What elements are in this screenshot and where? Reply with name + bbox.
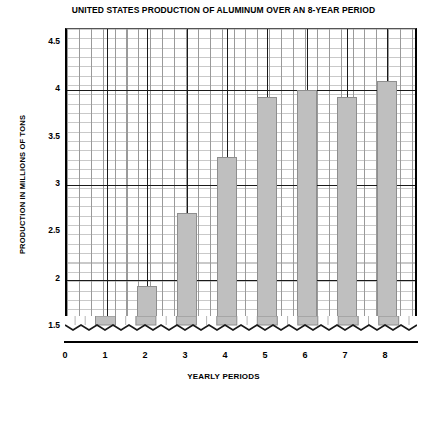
- y-tick-label-3: 3: [22, 178, 60, 188]
- axis-break-indicator: [65, 316, 417, 342]
- y-tick-label-4: 4: [22, 83, 60, 93]
- x-tick-label-0: 0: [50, 350, 80, 360]
- major-gridline-x1: [107, 29, 108, 341]
- chart-title: UNITED STATES PRODUCTION OF ALUMINUM OVE…: [0, 5, 447, 15]
- y-tick-label-4.5: 4.5: [22, 36, 60, 46]
- bar-period-6: [297, 90, 317, 341]
- major-gridline-2: [67, 280, 415, 281]
- x-tick-label-4: 4: [210, 350, 240, 360]
- y-tick-label-2: 2: [22, 273, 60, 283]
- x-tick-label-8: 8: [370, 350, 400, 360]
- x-tick-label-2: 2: [130, 350, 160, 360]
- x-tick-label-1: 1: [90, 350, 120, 360]
- x-tick-label-6: 6: [290, 350, 320, 360]
- x-axis-title: YEARLY PERIODS: [0, 372, 447, 381]
- x-tick-label-3: 3: [170, 350, 200, 360]
- x-tick-label-5: 5: [250, 350, 280, 360]
- y-tick-label-1.5: 1.5: [22, 320, 60, 330]
- major-gridline-4: [67, 90, 415, 91]
- bar-period-4: [217, 157, 237, 341]
- plot-area: [65, 28, 417, 341]
- x-axis-line: [64, 341, 418, 343]
- bar-period-7: [337, 97, 357, 341]
- major-gridline-3: [67, 185, 415, 186]
- bar-period-5: [257, 97, 277, 341]
- y-tick-label-3.5: 3.5: [22, 131, 60, 141]
- bar-period-8: [377, 81, 397, 341]
- x-tick-label-7: 7: [330, 350, 360, 360]
- y-tick-label-2.5: 2.5: [22, 225, 60, 235]
- chart-container: UNITED STATES PRODUCTION OF ALUMINUM OVE…: [0, 0, 447, 422]
